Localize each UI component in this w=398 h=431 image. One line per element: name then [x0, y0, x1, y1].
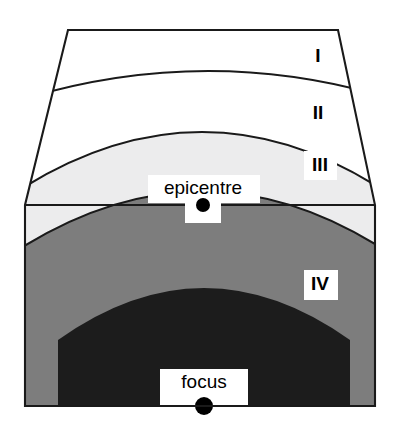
zone-label-i: I — [315, 45, 320, 66]
zone-label-ii: II — [313, 102, 324, 123]
focus-label: focus — [181, 371, 226, 392]
epicentre-dot — [196, 198, 210, 212]
focus-marker: focus — [160, 369, 248, 415]
epicentre-label: epicentre — [164, 177, 242, 198]
seismic-zone-diagram: I II III IV epicentre focus — [0, 0, 398, 431]
zone-label-iv: IV — [311, 273, 329, 294]
zone-label-iii: III — [312, 154, 328, 175]
seismic-diagram-canvas: I II III IV epicentre focus — [0, 0, 398, 431]
